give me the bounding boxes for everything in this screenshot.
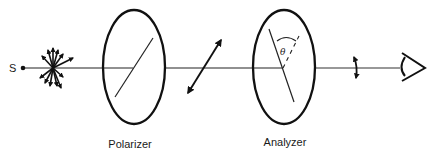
analyzer-axis-line: [269, 29, 294, 102]
polarizer-label: Polarizer: [108, 138, 152, 150]
light-source: S: [9, 62, 25, 74]
polarizer: Polarizer: [103, 10, 165, 150]
source-dot: [21, 66, 26, 71]
analyzer: θ Analyzer: [253, 10, 315, 148]
angle-theta-label: θ: [280, 47, 286, 57]
eye-icon: [402, 53, 426, 81]
angle-arc: [277, 38, 296, 42]
source-label: S: [9, 62, 16, 74]
polarization-diagram: S Polarizer θ Analyzer: [0, 0, 433, 159]
diagonal-double-arrow-icon: [188, 40, 221, 93]
analyzer-label: Analyzer: [264, 136, 307, 148]
